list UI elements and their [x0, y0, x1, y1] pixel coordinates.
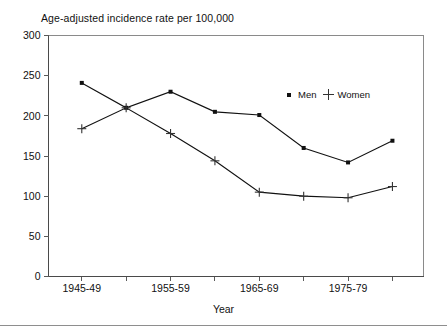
x-tick-label: 1965-69	[240, 282, 279, 294]
plot-frame	[49, 36, 424, 277]
data-point-women	[388, 182, 397, 191]
women-marker-icon	[323, 89, 334, 100]
data-point-women	[344, 193, 353, 202]
data-point-men	[213, 110, 217, 114]
data-point-men	[390, 139, 394, 143]
data-point-men	[302, 146, 306, 150]
chart-legend: Men Women	[284, 89, 370, 100]
data-point-women	[255, 188, 264, 197]
legend-label-women: Women	[337, 89, 370, 100]
data-point-men	[257, 113, 261, 117]
chart-axes	[49, 36, 424, 277]
x-tick-label: 1945-49	[63, 282, 102, 294]
y-tick-label: 300	[23, 29, 41, 41]
legend-entry-men: Men	[284, 89, 316, 100]
line-chart-plot: 0501001502002503001945-491955-591965-691…	[0, 0, 447, 333]
x-tick-label: 1975-79	[329, 282, 368, 294]
x-tick-label: 1955-59	[151, 282, 190, 294]
x-axis-label: Year	[0, 303, 447, 315]
data-point-men	[80, 81, 84, 85]
y-tick-label: 250	[23, 69, 41, 81]
series-line-women	[82, 108, 393, 198]
y-tick-label: 200	[23, 110, 41, 122]
y-tick-label: 100	[23, 190, 41, 202]
y-tick-label: 50	[29, 230, 41, 242]
data-point-women	[77, 124, 86, 133]
legend-label-men: Men	[298, 89, 316, 100]
data-point-women	[299, 192, 308, 201]
y-tick-label: 150	[23, 150, 41, 162]
men-marker-icon	[284, 89, 295, 100]
footer-divider	[0, 325, 447, 326]
chart-figure: Age-adjusted incidence rate per 100,000 …	[0, 0, 447, 333]
legend-entry-women: Women	[323, 89, 370, 100]
y-tick-label: 0	[35, 270, 41, 282]
data-point-women	[210, 156, 219, 165]
data-point-men	[346, 160, 350, 164]
data-point-women	[166, 129, 175, 138]
data-point-men	[169, 90, 173, 94]
data-point-women	[122, 103, 131, 112]
